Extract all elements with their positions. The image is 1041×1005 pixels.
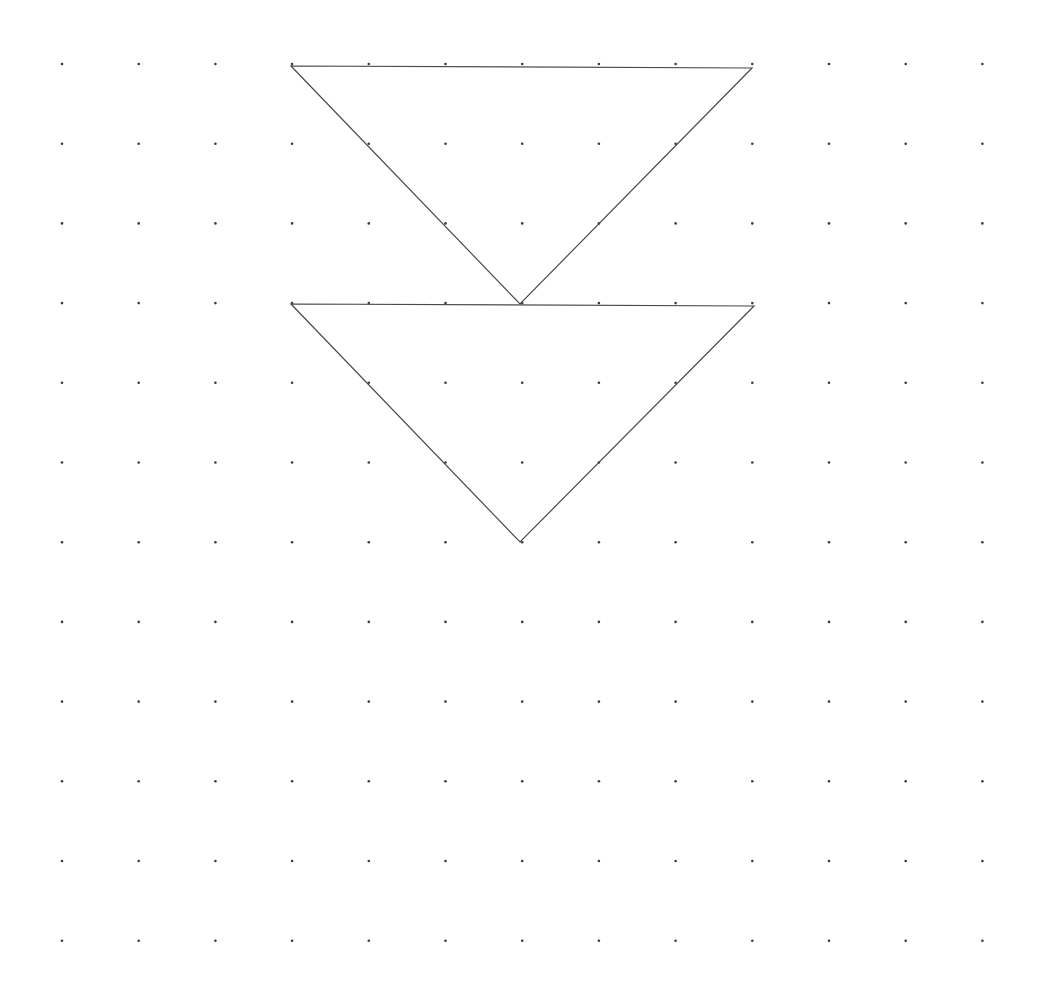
grid-dot (444, 302, 447, 305)
grid-dot (368, 700, 371, 703)
grid-dot (828, 302, 831, 305)
grid-dot (291, 382, 294, 385)
grid-dot (368, 621, 371, 624)
grid-dot (751, 939, 754, 942)
grid-dot (674, 302, 677, 305)
grid-dot (521, 700, 524, 703)
grid-dot (674, 860, 677, 863)
grid-dot (981, 700, 984, 703)
grid-dot (521, 621, 524, 624)
grid-dot (751, 541, 754, 544)
grid-dot (981, 302, 984, 305)
grid-dot (214, 461, 217, 464)
grid-dot (751, 860, 754, 863)
grid-dot (137, 461, 140, 464)
grid-dot (61, 939, 64, 942)
grid-dot (61, 621, 64, 624)
grid-dot (674, 461, 677, 464)
grid-dot (214, 780, 217, 783)
grid-dot (904, 63, 907, 66)
grid-dot (521, 382, 524, 385)
grid-dot (981, 621, 984, 624)
grid-dot (598, 541, 601, 544)
grid-dot (828, 142, 831, 145)
grid-dot (598, 621, 601, 624)
grid-dot (904, 142, 907, 145)
dot-grid-figure (0, 0, 1041, 1005)
grid-dot (137, 382, 140, 385)
grid-dot (751, 780, 754, 783)
grid-dot (751, 461, 754, 464)
grid-dot (61, 860, 64, 863)
grid-dot (521, 63, 524, 66)
grid-dot (291, 461, 294, 464)
grid-dot (904, 541, 907, 544)
grid-dot (368, 939, 371, 942)
grid-dot (214, 302, 217, 305)
grid-dot (751, 302, 754, 305)
grid-dot (444, 222, 447, 225)
grid-dot (137, 780, 140, 783)
grid-dot (981, 382, 984, 385)
grid-dot (291, 780, 294, 783)
grid-dot (981, 780, 984, 783)
grid-dot (981, 860, 984, 863)
grid-dot (368, 461, 371, 464)
grid-dot (214, 939, 217, 942)
triangle-upper (291, 66, 752, 304)
grid-dot (291, 541, 294, 544)
grid-dot (521, 222, 524, 225)
grid-dot (981, 63, 984, 66)
grid-dot (904, 780, 907, 783)
grid-dot (751, 63, 754, 66)
grid-dot (904, 860, 907, 863)
grid-dot (291, 939, 294, 942)
grid-dot (137, 939, 140, 942)
grid-dot (61, 63, 64, 66)
grid-dot (828, 63, 831, 66)
grid-dot (521, 860, 524, 863)
grid-dot (444, 700, 447, 703)
grid-dot (598, 142, 601, 145)
grid-dot (291, 222, 294, 225)
grid-dot (904, 621, 907, 624)
grid-dot (751, 700, 754, 703)
grid-dot (828, 461, 831, 464)
grid-dot (904, 302, 907, 305)
grid-dot (828, 939, 831, 942)
figure-canvas (0, 0, 1041, 1005)
grid-dot (981, 939, 984, 942)
grid-dot (598, 860, 601, 863)
grid-dot (137, 222, 140, 225)
grid-dot (214, 541, 217, 544)
grid-dot (828, 541, 831, 544)
grid-dot (61, 302, 64, 305)
grid-dot (751, 222, 754, 225)
grid-dot (751, 142, 754, 145)
grid-dot (674, 700, 677, 703)
grid-dot (444, 621, 447, 624)
grid-dot (137, 63, 140, 66)
grid-dot (981, 222, 984, 225)
grid-dot (61, 780, 64, 783)
grid-dot (214, 860, 217, 863)
grid-dot (674, 780, 677, 783)
grid-dot (291, 700, 294, 703)
grid-dot (444, 939, 447, 942)
grid-dot (521, 461, 524, 464)
dot-grid-layer (61, 63, 984, 942)
grid-dot (214, 382, 217, 385)
grid-dot (828, 621, 831, 624)
grid-dot (444, 860, 447, 863)
grid-dot (904, 461, 907, 464)
grid-dot (61, 700, 64, 703)
grid-dot (61, 461, 64, 464)
grid-dot (444, 63, 447, 66)
grid-dot (598, 302, 601, 305)
grid-dot (598, 382, 601, 385)
grid-dot (444, 541, 447, 544)
grid-dot (904, 939, 907, 942)
grid-dot (61, 541, 64, 544)
grid-dot (368, 222, 371, 225)
grid-dot (674, 63, 677, 66)
